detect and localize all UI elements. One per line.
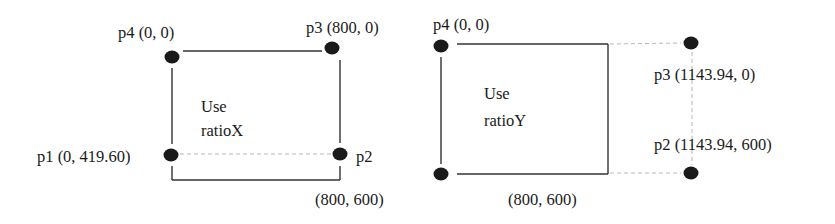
label-p3: p3 (800, 0) [306, 18, 379, 37]
caption-line1: Use [484, 84, 510, 103]
label-p2: p2 (1143.94, 600) [654, 135, 772, 154]
point-p3-dot [684, 37, 699, 50]
label-corner: (800, 600) [315, 190, 384, 209]
label-p2: p2 [356, 147, 373, 166]
diagram-canvas: p4 (0, 0) p3 (800, 0) p1 (0, 419.60) p2 … [0, 0, 835, 224]
label-p4: p4 (0, 0) [118, 23, 174, 42]
point-p1-dot [434, 168, 449, 181]
label-p4: p4 (0, 0) [433, 15, 489, 34]
point-p4-dot [165, 51, 180, 64]
label-p1: p1 (0, 419.60) [37, 147, 131, 166]
caption-line2: ratioX [201, 121, 243, 140]
label-p3: p3 (1143.94, 0) [654, 65, 755, 84]
point-p2-dot [684, 167, 699, 180]
point-p2-dot [333, 148, 348, 161]
caption-line2: ratioY [484, 111, 526, 130]
label-corner: (800, 600) [508, 190, 577, 209]
ratioy-diagram: p4 (0, 0) p3 (1143.94, 0) p2 (1143.94, 6… [433, 15, 772, 209]
point-p1-dot [164, 149, 179, 162]
point-p3-dot [325, 42, 340, 55]
ratiox-diagram: p4 (0, 0) p3 (800, 0) p1 (0, 419.60) p2 … [37, 18, 384, 209]
caption-line1: Use [201, 97, 227, 116]
aspect-ratio-diagram: p4 (0, 0) p3 (800, 0) p1 (0, 419.60) p2 … [0, 0, 835, 224]
top-dashed-extension [610, 43, 681, 44]
point-p4-dot [434, 40, 449, 53]
